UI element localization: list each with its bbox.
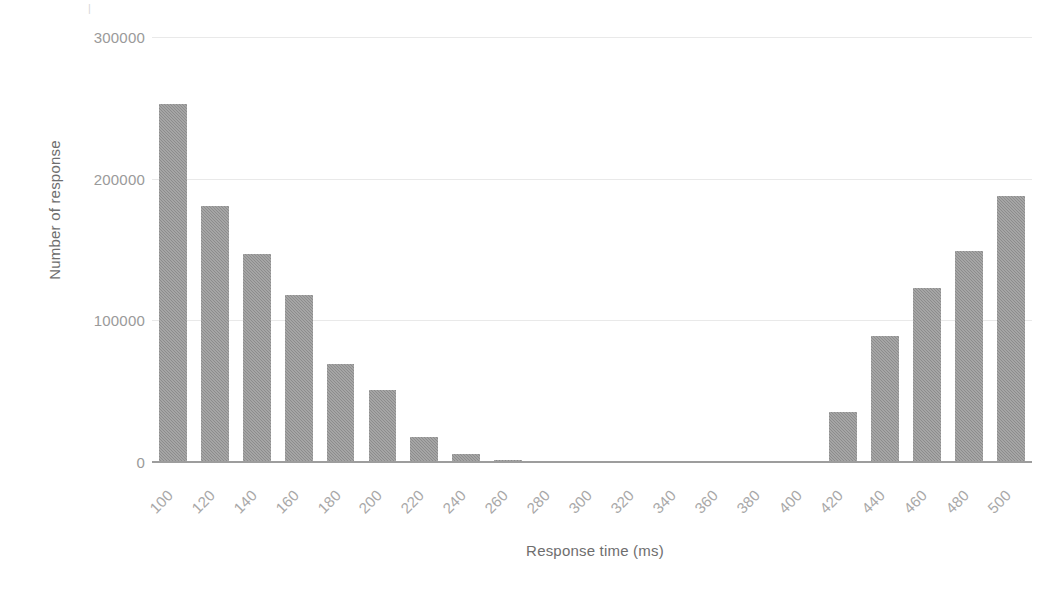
plot-area xyxy=(152,37,1032,462)
bar[interactable] xyxy=(410,437,438,463)
x-axis-tick-label: 440 xyxy=(858,486,888,516)
bar[interactable] xyxy=(871,336,899,462)
x-axis-tick-label: 240 xyxy=(439,486,469,516)
x-axis-tick-label: 420 xyxy=(817,486,847,516)
bar[interactable] xyxy=(243,254,271,462)
bar[interactable] xyxy=(997,196,1025,462)
bar[interactable] xyxy=(829,412,857,462)
x-axis-tick-label: 300 xyxy=(565,486,595,516)
bar[interactable] xyxy=(159,104,187,462)
x-axis-tick-label: 400 xyxy=(775,486,805,516)
x-axis-tick-label: 220 xyxy=(398,486,428,516)
x-axis-tick-label: 100 xyxy=(146,486,176,516)
bar[interactable] xyxy=(285,295,313,462)
x-axis-title: Response time (ms) xyxy=(155,542,1035,559)
x-axis-tick-label: 280 xyxy=(523,486,553,516)
y-axis-tick-labels: 0100000200000300000 xyxy=(55,0,145,599)
y-axis-tick-label: 100000 xyxy=(59,313,145,328)
x-axis-tick-label: 120 xyxy=(188,486,218,516)
bar[interactable] xyxy=(327,364,355,462)
x-axis-tick-label: 340 xyxy=(649,486,679,516)
bar-chart: | Number of response 0100000200000300000… xyxy=(0,0,1063,599)
x-axis-tick-label: 480 xyxy=(942,486,972,516)
x-axis-tick-labels: 1001201401601802002202402602803003203403… xyxy=(152,466,1032,536)
x-axis-tick-label: 360 xyxy=(691,486,721,516)
y-axis-tick-label: 0 xyxy=(59,455,145,470)
x-axis-tick-label: 380 xyxy=(733,486,763,516)
bar[interactable] xyxy=(955,251,983,462)
bars-group xyxy=(152,37,1032,462)
x-axis-tick-label: 320 xyxy=(607,486,637,516)
x-axis-tick-label: 180 xyxy=(314,486,344,516)
x-axis-tick-label: 460 xyxy=(900,486,930,516)
x-axis-tick-label: 160 xyxy=(272,486,302,516)
x-axis-tick-label: 260 xyxy=(481,486,511,516)
y-axis-tick-label: 200000 xyxy=(59,171,145,186)
x-axis-tick-label: 200 xyxy=(356,486,386,516)
x-axis-line xyxy=(152,461,1032,463)
y-axis-tick-label: 300000 xyxy=(59,30,145,45)
x-axis-tick-label: 500 xyxy=(984,486,1014,516)
bar[interactable] xyxy=(913,288,941,462)
bar[interactable] xyxy=(201,206,229,462)
x-axis-tick-label: 140 xyxy=(230,486,260,516)
bar[interactable] xyxy=(369,390,397,462)
